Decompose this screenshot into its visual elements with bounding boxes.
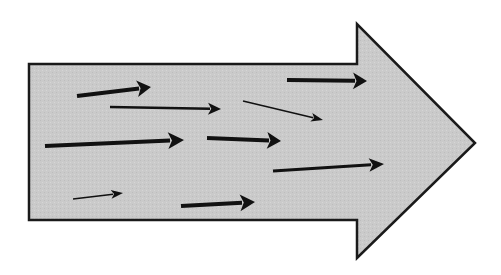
diagram-canvas: [0, 0, 501, 275]
aligned-vectors-diagram: [0, 0, 501, 275]
arrow-shaft: [287, 80, 355, 81]
arrow-shaft: [207, 138, 269, 141]
